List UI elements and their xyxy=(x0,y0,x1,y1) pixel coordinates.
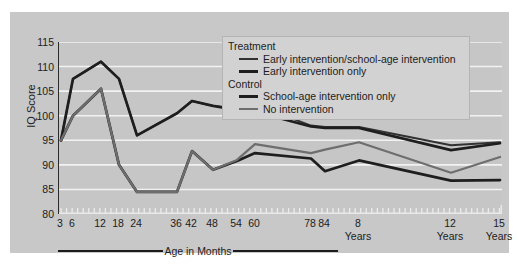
x-axis-label: Age in Months xyxy=(163,245,232,257)
legend-entry[interactable]: Early intervention only xyxy=(227,65,465,78)
x-tick-label: 3 xyxy=(57,217,63,229)
x-tick-label: 6 xyxy=(69,217,75,229)
legend-entry[interactable]: No intervention xyxy=(227,103,465,116)
y-tick-label: 85 xyxy=(24,184,54,194)
legend-entry-label: School-age intervention only xyxy=(263,90,396,103)
legend-group-title: Control xyxy=(227,78,465,91)
legend-line-swatch xyxy=(239,58,258,60)
y-tick-label: 80 xyxy=(24,209,54,219)
legend-entry-label: Early intervention/school-age interventi… xyxy=(263,53,456,66)
x-tick-label: 42 xyxy=(185,217,197,229)
legend-entry[interactable]: Early intervention/school-age interventi… xyxy=(227,53,465,66)
y-axis-label: IQ Score xyxy=(25,66,37,146)
x-tick-label: 54 xyxy=(230,217,242,229)
legend: TreatmentEarly intervention/school-age i… xyxy=(222,36,470,120)
legend-line-swatch xyxy=(239,70,258,73)
x-axis-subticks: YearsYearsYears xyxy=(58,230,501,244)
bracket-rule-right xyxy=(233,250,338,252)
bracket-rule-left xyxy=(58,250,163,252)
x-tick-label: 18 xyxy=(112,217,124,229)
x-tick-label: 48 xyxy=(206,217,218,229)
y-tick-label: 90 xyxy=(24,160,54,170)
figure: 11511010510095908580 IQ Score 3612182436… xyxy=(0,0,519,266)
legend-group-title: Treatment xyxy=(227,40,465,53)
legend-entry-label: Early intervention only xyxy=(263,65,366,78)
y-tick-label: 115 xyxy=(24,37,54,47)
x-tick-label: 12 xyxy=(444,217,456,229)
x-tick-label: 84 xyxy=(318,217,330,229)
x-tick-label: 8 xyxy=(355,217,361,229)
legend-entry-label: No intervention xyxy=(263,103,334,116)
legend-line-swatch xyxy=(239,95,258,98)
chart-panel: 11511010510095908580 IQ Score 3612182436… xyxy=(10,12,509,253)
x-axis-months-bracket: Age in Months xyxy=(58,244,338,258)
x-tick-label: 36 xyxy=(170,217,182,229)
x-tick-sublabel: Years xyxy=(345,230,371,242)
x-tick-label: 60 xyxy=(248,217,260,229)
x-tick-label: 15 xyxy=(493,217,505,229)
x-tick-label: 12 xyxy=(94,217,106,229)
x-axis-ticks: 361218243642485460788481215 xyxy=(58,217,501,231)
x-tick-label: 24 xyxy=(130,217,142,229)
legend-line-swatch xyxy=(239,108,258,110)
x-tick-sublabel: Years xyxy=(486,230,512,242)
x-tick-sublabel: Years xyxy=(437,230,463,242)
legend-entry[interactable]: School-age intervention only xyxy=(227,90,465,103)
x-tick-label: 78 xyxy=(304,217,316,229)
